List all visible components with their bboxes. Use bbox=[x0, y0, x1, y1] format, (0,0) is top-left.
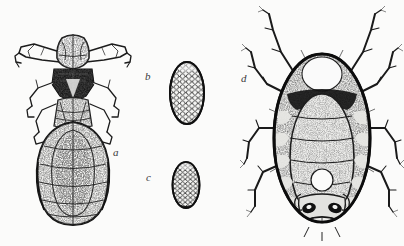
figure-label-b: b bbox=[145, 71, 151, 82]
illustration-plate: a bbox=[0, 0, 404, 246]
figure-c-egg-small bbox=[167, 159, 207, 211]
figure-label-a: a bbox=[113, 147, 119, 158]
figure-label-d: d bbox=[241, 73, 247, 84]
figure-label-c: c bbox=[146, 172, 151, 183]
figure-b-egg-large bbox=[164, 58, 212, 128]
figure-d-mite bbox=[243, 8, 401, 242]
figure-a-louse-nymph bbox=[14, 22, 132, 227]
